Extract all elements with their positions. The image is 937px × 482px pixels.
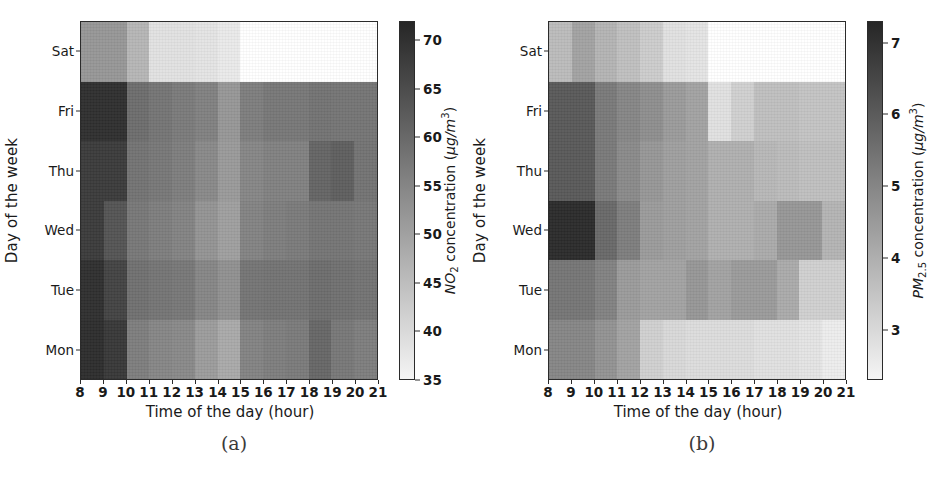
heatmap-cell: [731, 141, 754, 201]
x-tick-mark: [218, 380, 219, 384]
x-tick-label-18: 18: [300, 384, 319, 400]
heatmap-cell: [595, 22, 618, 82]
y-tick-label-sat: Sat: [52, 43, 74, 59]
heatmap-cell: [263, 260, 286, 320]
heatmap-cell: [640, 201, 663, 261]
x-tick-mark: [663, 380, 664, 384]
heatmap-cell: [640, 320, 663, 380]
y-tick-label-wed: Wed: [513, 222, 542, 238]
heatmap-cell: [663, 320, 686, 380]
y-axis-ticks-b: SatFriThuWedTueMon: [468, 21, 548, 380]
heatmap-plot-a[interactable]: [80, 21, 378, 380]
heatmap-cell: [286, 320, 309, 380]
heatmap-cell: [354, 141, 377, 201]
y-tick-label-thu: Thu: [49, 163, 74, 179]
heatmap-cell: [754, 141, 777, 201]
colorbar-tick-label-3: 3: [891, 322, 900, 338]
colorbar-tick-label-50: 50: [423, 226, 442, 242]
heatmap-cell: [595, 82, 618, 142]
heatmap-cell: [127, 141, 150, 201]
colorbar-tick-label-70: 70: [423, 32, 442, 48]
heatmap-cell: [81, 260, 104, 320]
heatmap-cell: [309, 82, 332, 142]
y-tick-label-wed: Wed: [45, 222, 74, 238]
heatmap-cell: [104, 141, 127, 201]
x-tick-label-9: 9: [98, 384, 107, 400]
y-tick-label-tue: Tue: [519, 282, 542, 298]
colorbar-tick-mark: [415, 380, 420, 381]
heatmap-cell: [595, 141, 618, 201]
x-tick-mark: [800, 380, 801, 384]
heatmap-cell: [263, 22, 286, 82]
x-tick-label-8: 8: [543, 384, 552, 400]
heatmap-cell: [309, 22, 332, 82]
heatmap-cell: [172, 22, 195, 82]
heatmap-cell: [731, 201, 754, 261]
heatmap-cell: [149, 22, 172, 82]
heatmap-cell: [240, 201, 263, 261]
colorbar-tick-mark: [883, 186, 888, 187]
heatmap-cell: [617, 201, 640, 261]
x-tick-label-10: 10: [116, 384, 135, 400]
x-tick-label-8: 8: [75, 384, 84, 400]
heatmap-cell: [708, 141, 731, 201]
heatmap-cell: [172, 260, 195, 320]
x-tick-label-15: 15: [231, 384, 250, 400]
heatmap-cell: [663, 201, 686, 261]
heatmap-cell: [172, 141, 195, 201]
heatmap-cell: [595, 320, 618, 380]
panel-caption-b: (b): [468, 432, 936, 454]
heatmap-cell: [663, 260, 686, 320]
heatmap-cell: [822, 22, 845, 82]
panel-b: Day of the week SatFriThuWedTueMon 89101…: [468, 0, 936, 482]
colorbar-label-wrap-a: NO2 concentration (µg/m3): [440, 21, 464, 380]
heatmap-cell: [708, 82, 731, 142]
colorbar-tick-label-7: 7: [891, 35, 900, 51]
heatmap-cell: [617, 22, 640, 82]
heatmap-cell: [354, 82, 377, 142]
heatmap-cell: [149, 82, 172, 142]
x-tick-label-20: 20: [814, 384, 833, 400]
x-tick-mark: [571, 380, 572, 384]
heatmap-cell: [172, 82, 195, 142]
heatmap-cell: [354, 260, 377, 320]
heatmap-cell: [686, 320, 709, 380]
colorbar-tick-label-5: 5: [891, 178, 900, 194]
x-axis-label-a: Time of the day (hour): [60, 403, 400, 421]
x-tick-mark: [286, 380, 287, 384]
heatmap-cell: [777, 260, 800, 320]
colorbar-a: [399, 21, 415, 380]
colorbar-tick-mark: [415, 282, 420, 283]
heatmap-cell: [549, 320, 572, 380]
heatmap-cell: [127, 82, 150, 142]
heatmap-cell: [777, 82, 800, 142]
x-tick-label-14: 14: [676, 384, 695, 400]
panel-a: Day of the week SatFriThuWedTueMon 89101…: [0, 0, 468, 482]
colorbar-tick-mark: [883, 257, 888, 258]
heatmap-cell: [595, 260, 618, 320]
heatmap-cell: [218, 320, 241, 380]
colorbar-tick-mark: [415, 185, 420, 186]
heatmap-cell: [263, 201, 286, 261]
x-tick-mark: [708, 380, 709, 384]
heatmap-cell: [572, 141, 595, 201]
heatmap-cell: [286, 260, 309, 320]
heatmap-cell: [104, 82, 127, 142]
heatmap-cell: [104, 260, 127, 320]
x-tick-mark: [172, 380, 173, 384]
panel-caption-a: (a): [0, 432, 468, 454]
heatmap-cell: [218, 201, 241, 261]
heatmap-cell: [104, 22, 127, 82]
heatmap-plot-b[interactable]: [548, 21, 846, 380]
heatmap-cell: [572, 201, 595, 261]
heatmap-cell: [799, 260, 822, 320]
colorbar-tick-mark: [883, 329, 888, 330]
heatmap-cell: [549, 260, 572, 320]
heatmap-cell: [218, 82, 241, 142]
x-tick-mark: [80, 380, 81, 384]
heatmap-cell: [286, 201, 309, 261]
heatmap-cell: [822, 82, 845, 142]
colorbar-tick-mark: [415, 234, 420, 235]
heatmap-cell: [149, 260, 172, 320]
heatmap-cell: [149, 320, 172, 380]
